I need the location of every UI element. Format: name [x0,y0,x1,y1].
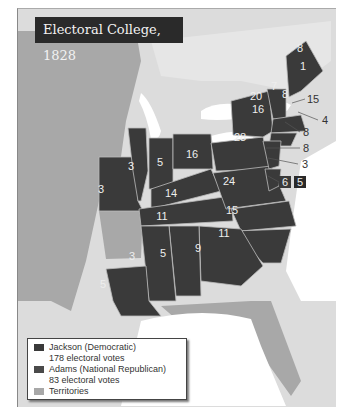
label-in: 5 [157,156,163,168]
label-nc: 15 [226,204,238,216]
label-ny-a: 20 [250,90,262,102]
label-ms: 3 [129,250,135,262]
legend-adams-votes: 83 electoral votes [34,375,180,386]
label-va: 24 [223,175,235,187]
label-de: 3 [302,158,308,170]
label-ky: 14 [165,187,177,199]
label-vt: 7 [271,80,277,92]
label-oh: 16 [186,148,198,160]
label-md-b: 5 [297,176,303,188]
legend-jackson-votes: 178 electoral votes [34,353,180,364]
adams-swatch-icon [34,366,44,373]
label-nj: 8 [303,142,309,154]
map-legend: Jackson (Democratic) 178 electoral votes… [27,338,187,400]
legend-jackson: Jackson (Democratic) [34,342,180,353]
label-ny-b: 16 [252,103,264,115]
label-la: 5 [100,278,106,290]
territories-swatch-icon [34,388,44,395]
label-me-a: 8 [297,42,303,54]
label-sc: 11 [218,227,229,239]
label-il: 3 [128,160,134,172]
label-md-a: 6 [282,176,288,188]
label-nh: 8 [282,88,288,100]
label-ct: 8 [303,126,309,138]
label-al: 5 [160,247,166,259]
label-pa: 28 [234,131,246,143]
label-ma: 15 [307,93,319,105]
label-mo: 3 [98,183,104,195]
legend-adams: Adams (National Republican) [34,364,180,375]
label-tn: 11 [156,210,167,222]
label-ri: 4 [322,114,328,126]
map-title: Electoral College, 1828 [35,17,183,43]
label-ga: 9 [195,242,201,254]
jackson-swatch-icon [34,344,44,351]
label-me-b: 1 [300,60,306,72]
legend-territories: Territories [34,386,180,397]
